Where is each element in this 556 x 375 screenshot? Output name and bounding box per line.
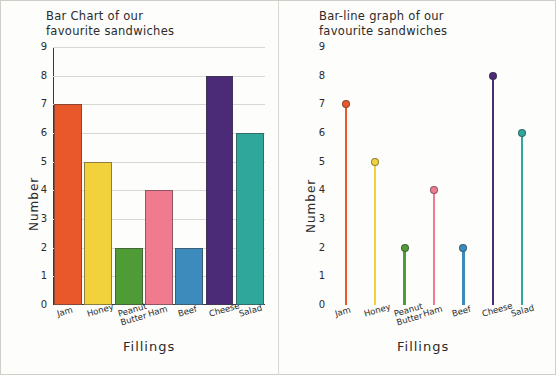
y-axis-tick-label: 4 xyxy=(311,184,325,195)
bar xyxy=(236,133,264,305)
gridline xyxy=(53,47,265,48)
bar xyxy=(54,104,82,305)
y-axis-tick-label: 9 xyxy=(311,41,325,52)
bar-chart-title: Bar Chart of our favourite sandwiches xyxy=(46,9,174,39)
data-point xyxy=(342,100,350,108)
stem-line xyxy=(521,133,523,305)
y-axis-tick-label: 8 xyxy=(311,70,325,81)
data-point xyxy=(489,72,497,80)
y-axis-tick-label: 4 xyxy=(33,184,47,195)
data-point xyxy=(401,244,409,252)
y-axis-tick-label: 3 xyxy=(33,213,47,224)
stem-line xyxy=(374,162,376,305)
bar xyxy=(115,248,143,305)
stem-line xyxy=(345,104,347,305)
stem-line xyxy=(462,248,464,305)
bar xyxy=(84,162,112,305)
y-axis-tick-label: 2 xyxy=(33,242,47,253)
stem-line xyxy=(492,76,494,305)
bar xyxy=(206,76,234,305)
bar-line-graph-panel: Bar-line graph of our favourite sandwich… xyxy=(279,1,556,375)
x-axis-tick-label: Salad xyxy=(238,304,263,319)
bar-chart-panel: Bar Chart of our favourite sandwiches Nu… xyxy=(1,1,279,375)
x-axis-tick-label: Peanut Butter xyxy=(117,302,150,327)
x-axis-tick-label: Salad xyxy=(510,304,535,319)
y-axis-tick-label: 1 xyxy=(33,270,47,281)
y-axis-tick-label: 1 xyxy=(311,270,325,281)
x-axis-tick-label: Cheese xyxy=(481,301,514,318)
x-axis-tick-label: Honey xyxy=(363,302,392,318)
bar xyxy=(145,190,173,305)
y-axis-tick-label: 3 xyxy=(311,213,325,224)
stem-line xyxy=(433,190,435,305)
x-axis-tick-label: Jam xyxy=(334,306,352,319)
y-axis-tick-label: 5 xyxy=(311,156,325,167)
bar-line-graph-title: Bar-line graph of our favourite sandwich… xyxy=(319,9,447,39)
y-axis-tick-label: 8 xyxy=(33,70,47,81)
worksheet-page: Bar Chart of our favourite sandwiches Nu… xyxy=(0,0,556,375)
bar-line-x-axis-label: Fillings xyxy=(397,339,449,354)
data-point xyxy=(371,158,379,166)
data-point xyxy=(518,129,526,137)
y-axis-tick-label: 9 xyxy=(33,41,47,52)
bar xyxy=(175,248,203,305)
data-point xyxy=(430,186,438,194)
y-axis-tick-label: 6 xyxy=(311,127,325,138)
y-axis-tick-label: 7 xyxy=(311,98,325,109)
y-axis-tick-label: 5 xyxy=(33,156,47,167)
y-axis-tick-label: 6 xyxy=(33,127,47,138)
y-axis-tick-label: 7 xyxy=(33,98,47,109)
x-axis-tick-label: Jam xyxy=(56,306,74,319)
x-axis-tick-label: Beef xyxy=(451,305,472,319)
y-axis-tick-label: 0 xyxy=(33,299,47,310)
bar-chart-x-axis-label: Fillings xyxy=(123,339,175,354)
x-axis-tick-label: Ham xyxy=(147,305,169,319)
x-axis-tick-label: Beef xyxy=(177,305,198,319)
data-point xyxy=(459,244,467,252)
y-axis-tick-label: 2 xyxy=(311,242,325,253)
y-axis-tick-label: 0 xyxy=(311,299,325,310)
x-axis-tick-label: Ham xyxy=(422,305,444,319)
stem-line xyxy=(403,248,405,305)
x-axis-tick-label: Peanut Butter xyxy=(393,302,426,327)
